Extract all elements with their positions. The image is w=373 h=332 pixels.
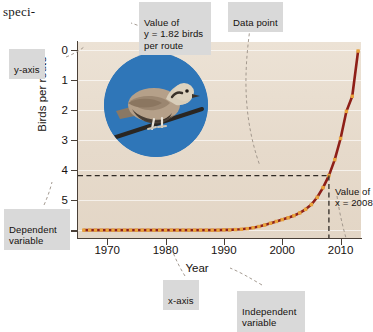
callout-value-of-x: Value of x = 2008	[330, 171, 373, 212]
callout-value-of-y-text: Value of y = 1.82 birds per route	[144, 17, 203, 51]
callout-x-axis-text: x-axis	[168, 295, 194, 306]
callout-value-of-x-text: Value of x = 2008	[335, 186, 373, 209]
callout-data-point-text: Data point	[233, 17, 278, 28]
callout-y-axis-text: y-axis	[14, 64, 40, 75]
callout-data-point: Data point	[228, 2, 283, 32]
callout-dependent-variable-text: Dependent variable	[9, 224, 57, 247]
callout-dependent-variable: Dependent variable	[4, 209, 70, 250]
callout-independent-variable: Independent variable	[237, 291, 305, 332]
callout-x-axis: x-axis	[163, 280, 199, 310]
callout-value-of-y: Value of y = 1.82 birds per route	[139, 2, 211, 55]
callout-independent-variable-text: Independent variable	[242, 306, 296, 329]
callout-y-axis: y-axis	[9, 49, 45, 79]
